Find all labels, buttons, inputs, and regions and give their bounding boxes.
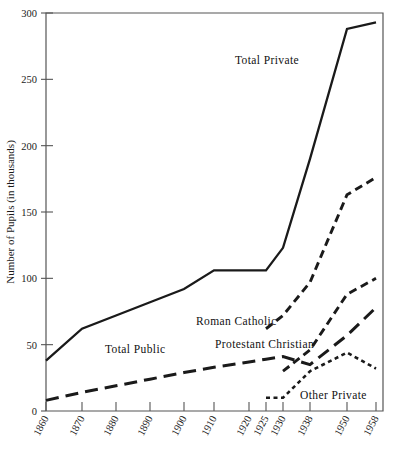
x-axis-tick-labels: 1860187018801890190019101920192519301938… (31, 414, 381, 438)
series-line-roman-catholic (266, 178, 376, 329)
y-axis-ticks (41, 13, 53, 411)
y-tick-label: 300 (21, 8, 37, 19)
plot-frame (46, 13, 383, 411)
series-label-protestant-christian: Protestant Christian (215, 338, 314, 350)
x-tick-label: 1880 (101, 414, 121, 438)
y-tick-label: 0 (32, 406, 37, 417)
y-axis-title: Number of Pupils (in thousands) (4, 140, 17, 284)
x-tick-label: 1900 (169, 414, 189, 438)
chart-container: 050100150200250300 186018701880189019001… (0, 0, 395, 465)
series-line-total-private (46, 22, 376, 360)
y-axis-tick-labels: 050100150200250300 (21, 8, 37, 417)
y-tick-label: 250 (21, 74, 37, 85)
series-label-total-public: Total Public (105, 343, 166, 355)
pupils-line-chart: 050100150200250300 186018701880189019001… (0, 0, 395, 465)
x-tick-label: 1890 (135, 414, 155, 438)
x-tick-label: 1910 (199, 414, 219, 438)
x-axis-ticks (46, 402, 376, 411)
x-tick-label: 1870 (67, 414, 87, 438)
series-label-roman-catholic: Roman Catholic (196, 315, 277, 327)
x-tick-label: 1938 (295, 414, 315, 438)
data-series-group (46, 22, 376, 400)
y-tick-label: 150 (21, 207, 37, 218)
x-tick-label: 1930 (268, 414, 288, 438)
y-tick-label: 50 (27, 340, 38, 351)
series-label-total-private: Total Private (235, 54, 299, 66)
y-tick-label: 200 (21, 141, 37, 152)
series-line-protestant-christian (283, 278, 376, 371)
x-tick-label: 1860 (31, 414, 51, 438)
x-tick-label: 1920 (234, 414, 254, 438)
y-tick-label: 100 (21, 273, 37, 284)
x-tick-label: 1950 (332, 414, 352, 438)
series-label-other-private: Other Private (300, 389, 367, 401)
x-tick-label: 1925 (251, 414, 271, 438)
x-tick-label: 1958 (361, 414, 381, 438)
